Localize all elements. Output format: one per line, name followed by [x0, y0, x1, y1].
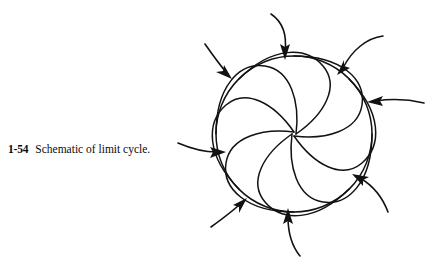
spiral-arc-2: [258, 134, 349, 216]
spiral-arc-8: [294, 79, 376, 170]
figure-page: 1-54Schematic of limit cycle.: [0, 0, 428, 266]
arrow-upper-left: [205, 44, 232, 79]
inward-arrow-group: [178, 14, 424, 256]
arrow-upper-right: [337, 36, 383, 75]
limit-cycle-diagram: [0, 0, 428, 266]
arrow-lower-left: [211, 198, 247, 227]
spiral-arc-6: [239, 52, 330, 134]
arrow-lower-right: [352, 174, 388, 212]
arrow-right: [367, 96, 424, 106]
spiral-trajectory-group: [212, 52, 375, 215]
spiral-arc-4: [212, 98, 294, 189]
